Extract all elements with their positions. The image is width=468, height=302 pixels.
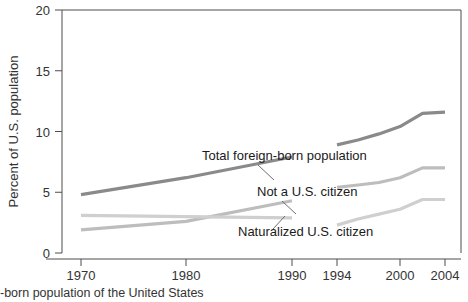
chart-figure: 05101520197019801990199420002004YearPerc… (0, 0, 468, 302)
x-tick-label: 1994 (323, 268, 352, 283)
y-tick-label: 5 (43, 185, 50, 200)
series-annotation-label: Not a U.S. citizen (257, 184, 357, 199)
series-line (81, 215, 292, 218)
y-tick-label: 15 (36, 64, 50, 79)
y-tick-label: 0 (43, 246, 50, 261)
series-annotation-label: Naturalized U.S. citizen (238, 224, 373, 239)
x-tick-label: 2000 (386, 268, 415, 283)
figure-caption: -born population of the United States (0, 286, 468, 302)
x-tick-label: 1980 (172, 268, 201, 283)
y-tick-label: 10 (36, 125, 50, 140)
x-tick-label: 2004 (431, 268, 460, 283)
x-tick-label: 1970 (67, 268, 96, 283)
line-chart: 05101520197019801990199420002004YearPerc… (0, 0, 468, 286)
series-line (337, 200, 445, 226)
x-tick-label: 1990 (278, 268, 307, 283)
annotation-leader-line (258, 165, 274, 180)
series-annotation-label: Total foreign-born population (202, 148, 367, 163)
y-axis-title: Percent of U.S. population (6, 56, 21, 208)
y-tick-label: 20 (36, 3, 50, 18)
series-line (337, 112, 445, 145)
